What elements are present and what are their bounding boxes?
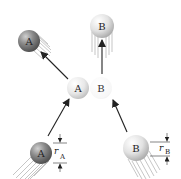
radius-subscript-a: A — [59, 153, 66, 161]
arrow-a-approach — [48, 99, 69, 136]
radius-label-b: r — [159, 143, 164, 153]
ball-a-before: A — [30, 142, 52, 164]
ball-label: A — [73, 83, 82, 94]
ball-a-impact: A — [67, 77, 89, 99]
radius-label-a: r — [54, 146, 59, 156]
arrow-b-approach — [113, 100, 127, 132]
ball-label: B — [132, 143, 139, 154]
ball-a-after: A — [18, 30, 40, 52]
ball-label: B — [98, 21, 105, 32]
ball-b-after: B — [90, 14, 114, 38]
ball-b-impact: B — [90, 77, 112, 99]
diagram-canvas: A B A B A B r A — [0, 0, 181, 179]
arrow-a-rebound — [41, 52, 68, 79]
radius-subscript-b: B — [165, 148, 170, 156]
ball-label: A — [24, 36, 33, 47]
ball-b-before: B — [123, 135, 149, 161]
impact-diagram: A B A B A B r A — [0, 0, 181, 179]
ball-label: B — [97, 83, 104, 94]
ball-label: A — [36, 148, 45, 159]
